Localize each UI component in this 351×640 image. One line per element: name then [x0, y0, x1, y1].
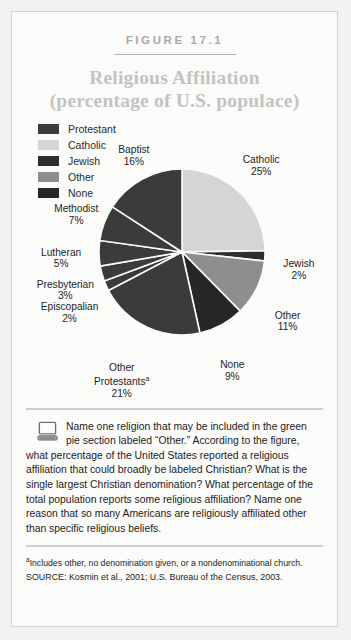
pie-label-pct: 21% — [94, 388, 149, 400]
pie-label-name: Episcopalian — [41, 301, 99, 313]
pie-label-footnote-marker: a — [146, 375, 150, 382]
figure-number: FIGURE 17.1 — [12, 34, 337, 46]
source-line: SOURCE: Kosmin et al., 2001; U.S. Bureau… — [26, 572, 323, 584]
pie-label-name-line2: Protestantsa — [94, 373, 149, 388]
legend-item-catholic: Catholic — [38, 138, 116, 152]
footnote: aIncludes other, no denomination given, … — [26, 554, 323, 569]
caption-divider — [26, 408, 323, 409]
pie-label-jewish: Jewish2% — [283, 258, 314, 281]
footnote-divider — [26, 545, 323, 546]
pie-chart — [98, 168, 266, 336]
pie-svg — [98, 168, 266, 336]
legend-swatch-icon — [38, 156, 59, 166]
figure-panel: FIGURE 17.1 Religious Affiliation (perce… — [11, 11, 338, 627]
pie-label-baptist: Baptist16% — [118, 144, 149, 167]
pie-label-name: Methodist — [54, 203, 98, 215]
figure-title: Religious Affiliation (percentage of U.S… — [12, 66, 337, 112]
footnote-text: Includes other, no denomination given, o… — [30, 557, 303, 567]
pie-label-methodist: Methodist7% — [54, 203, 98, 226]
pie-label-pct: 9% — [220, 371, 244, 383]
figure-title-line2: (percentage of U.S. populace) — [50, 90, 300, 111]
pie-label-catholic: Catholic25% — [243, 154, 280, 177]
figure-rule — [114, 54, 236, 55]
legend-label: Protestant — [68, 124, 116, 135]
legend-label: Jewish — [68, 156, 100, 167]
pie-label-name: None — [220, 359, 244, 371]
computer-monitor-icon — [36, 421, 59, 442]
pie-label-pct: 16% — [118, 156, 149, 168]
pie-label-name: Presbyterian — [37, 279, 94, 291]
legend-swatch-icon — [38, 172, 59, 182]
pie-label-pct: 3% — [37, 290, 94, 302]
pie-label-pct: 25% — [243, 166, 280, 178]
pie-label-pct: 2% — [41, 313, 99, 325]
legend-swatch-icon — [38, 124, 59, 134]
pie-label-name: Lutheran — [41, 247, 81, 259]
pie-label-episcopalian: Episcopalian2% — [41, 301, 99, 324]
caption-block: Name one religion that may be included i… — [26, 420, 323, 537]
legend-label: Other — [68, 172, 94, 183]
pie-chart-area: ProtestantCatholicJewishOtherNone Cathol… — [12, 120, 338, 402]
pie-label-pct: 11% — [275, 321, 300, 333]
legend-swatch-icon — [38, 188, 59, 198]
pie-label-pct: 2% — [283, 270, 314, 282]
pie-slice-catholic — [182, 169, 265, 252]
pie-label-other: Other11% — [275, 310, 300, 333]
legend-item-jewish: Jewish — [38, 154, 116, 168]
pie-label-name: Catholic — [243, 154, 280, 166]
legend-label: Catholic — [68, 140, 106, 151]
pie-label-name: Baptist — [118, 144, 149, 156]
pie-label-name: Other — [275, 310, 300, 322]
figure-title-line1: Religious Affiliation — [89, 67, 260, 88]
pie-label-name: Jewish — [283, 258, 314, 270]
caption-text: Name one religion that may be included i… — [26, 421, 313, 534]
pie-label-none: None9% — [220, 359, 244, 382]
pie-label-presbyterian: Presbyterian3% — [37, 279, 94, 302]
legend-swatch-icon — [38, 140, 59, 150]
pie-label-other-protestants: OtherProtestantsa21% — [94, 362, 149, 400]
pie-label-pct: 7% — [54, 215, 98, 227]
legend-item-protestant: Protestant — [38, 122, 116, 136]
pie-label-pct: 5% — [41, 258, 81, 270]
legend-label: None — [68, 188, 93, 199]
pie-label-name: Other — [94, 362, 149, 374]
pie-label-lutheran: Lutheran5% — [41, 247, 81, 270]
